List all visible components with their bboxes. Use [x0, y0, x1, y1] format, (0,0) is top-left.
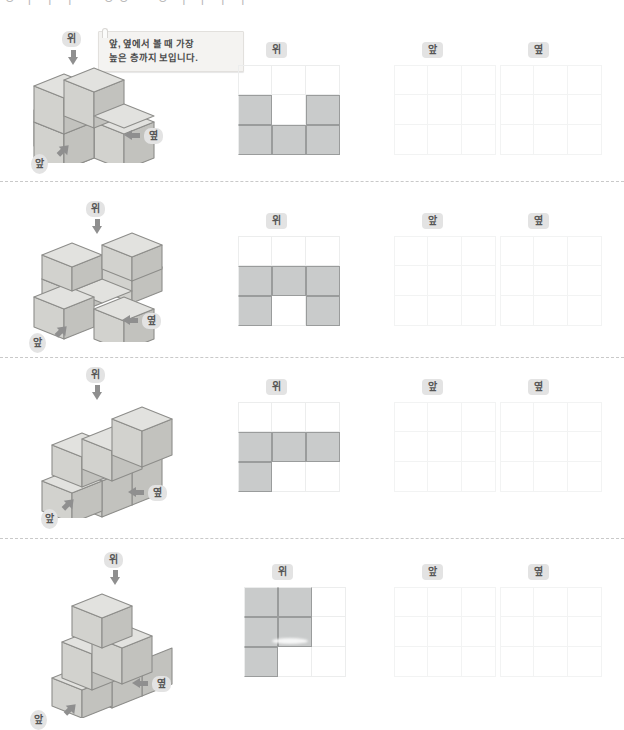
grid-cell[interactable] — [272, 95, 306, 125]
grid-cell[interactable] — [534, 587, 568, 617]
grid-cell[interactable] — [306, 95, 340, 125]
grid-top-4[interactable] — [244, 587, 346, 677]
grid-cell[interactable] — [394, 617, 428, 647]
grid-cell[interactable] — [428, 125, 462, 155]
grid-cell[interactable] — [238, 266, 272, 296]
grid-cell[interactable] — [568, 236, 602, 266]
grid-cell[interactable] — [428, 587, 462, 617]
grid-cell[interactable] — [394, 647, 428, 677]
grid-front-2[interactable] — [394, 236, 496, 326]
grid-cell[interactable] — [238, 462, 272, 492]
grid-cell[interactable] — [500, 402, 534, 432]
grid-front-3[interactable] — [394, 402, 496, 492]
grid-cell[interactable] — [568, 95, 602, 125]
grid-cell[interactable] — [238, 236, 272, 266]
grid-cell[interactable] — [238, 296, 272, 326]
grid-cell[interactable] — [428, 617, 462, 647]
grid-side-2[interactable] — [500, 236, 602, 326]
grid-cell[interactable] — [238, 402, 272, 432]
grid-cell[interactable] — [428, 236, 462, 266]
grid-cell[interactable] — [462, 402, 496, 432]
grid-cell[interactable] — [534, 296, 568, 326]
grid-cell[interactable] — [306, 462, 340, 492]
grid-cell[interactable] — [244, 587, 278, 617]
grid-cell[interactable] — [272, 462, 306, 492]
grid-cell[interactable] — [394, 236, 428, 266]
grid-cell[interactable] — [568, 462, 602, 492]
grid-cell[interactable] — [428, 462, 462, 492]
grid-cell[interactable] — [238, 125, 272, 155]
grid-cell[interactable] — [428, 432, 462, 462]
grid-cell[interactable] — [568, 647, 602, 677]
grid-cell[interactable] — [428, 65, 462, 95]
grid-cell[interactable] — [462, 432, 496, 462]
grid-cell[interactable] — [272, 432, 306, 462]
grid-cell[interactable] — [272, 266, 306, 296]
grid-cell[interactable] — [534, 402, 568, 432]
grid-cell[interactable] — [568, 617, 602, 647]
grid-cell[interactable] — [462, 647, 496, 677]
grid-cell[interactable] — [500, 647, 534, 677]
grid-side-3[interactable] — [500, 402, 602, 492]
grid-cell[interactable] — [500, 296, 534, 326]
grid-cell[interactable] — [534, 125, 568, 155]
grid-cell[interactable] — [244, 647, 278, 677]
grid-cell[interactable] — [462, 462, 496, 492]
grid-cell[interactable] — [500, 95, 534, 125]
grid-cell[interactable] — [534, 266, 568, 296]
grid-cell[interactable] — [394, 587, 428, 617]
grid-cell[interactable] — [500, 266, 534, 296]
grid-cell[interactable] — [244, 617, 278, 647]
grid-cell[interactable] — [500, 587, 534, 617]
grid-top-1[interactable] — [238, 65, 340, 155]
grid-front-4[interactable] — [394, 587, 496, 677]
grid-cell[interactable] — [534, 236, 568, 266]
grid-cell[interactable] — [306, 125, 340, 155]
grid-cell[interactable] — [534, 617, 568, 647]
grid-cell[interactable] — [462, 617, 496, 647]
grid-cell[interactable] — [568, 432, 602, 462]
grid-cell[interactable] — [306, 236, 340, 266]
grid-cell[interactable] — [394, 462, 428, 492]
grid-cell[interactable] — [568, 125, 602, 155]
grid-cell[interactable] — [534, 462, 568, 492]
grid-cell[interactable] — [428, 296, 462, 326]
grid-top-2[interactable] — [238, 236, 340, 326]
grid-cell[interactable] — [500, 236, 534, 266]
grid-cell[interactable] — [428, 402, 462, 432]
grid-cell[interactable] — [500, 432, 534, 462]
grid-cell[interactable] — [278, 587, 312, 617]
grid-top-3[interactable] — [238, 402, 340, 492]
grid-cell[interactable] — [568, 266, 602, 296]
grid-cell[interactable] — [500, 125, 534, 155]
grid-cell[interactable] — [272, 296, 306, 326]
grid-cell[interactable] — [500, 65, 534, 95]
grid-cell[interactable] — [394, 125, 428, 155]
grid-cell[interactable] — [568, 296, 602, 326]
grid-cell[interactable] — [306, 65, 340, 95]
grid-side-4[interactable] — [500, 587, 602, 677]
grid-cell[interactable] — [306, 266, 340, 296]
grid-cell[interactable] — [500, 462, 534, 492]
grid-cell[interactable] — [462, 236, 496, 266]
grid-cell[interactable] — [462, 125, 496, 155]
grid-cell[interactable] — [272, 125, 306, 155]
grid-cell[interactable] — [278, 647, 312, 677]
grid-cell[interactable] — [394, 65, 428, 95]
grid-cell[interactable] — [568, 402, 602, 432]
grid-cell[interactable] — [394, 266, 428, 296]
grid-cell[interactable] — [312, 587, 346, 617]
grid-cell[interactable] — [568, 65, 602, 95]
grid-cell[interactable] — [462, 95, 496, 125]
grid-cell[interactable] — [238, 95, 272, 125]
grid-cell[interactable] — [428, 266, 462, 296]
grid-cell[interactable] — [462, 65, 496, 95]
grid-cell[interactable] — [462, 266, 496, 296]
grid-cell[interactable] — [394, 95, 428, 125]
grid-cell[interactable] — [272, 236, 306, 266]
grid-cell[interactable] — [428, 95, 462, 125]
grid-cell[interactable] — [394, 296, 428, 326]
grid-cell[interactable] — [272, 402, 306, 432]
grid-cell[interactable] — [428, 647, 462, 677]
grid-cell[interactable] — [534, 432, 568, 462]
